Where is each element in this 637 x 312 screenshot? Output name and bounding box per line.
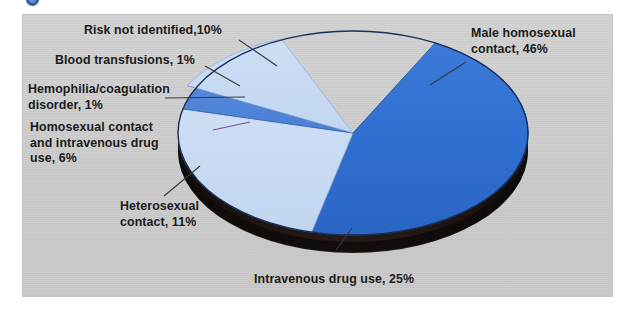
pie-slices xyxy=(178,31,528,235)
label-male-homosexual-contact: Male homosexual contact, 46% xyxy=(471,26,576,57)
label-risk-not-identified: Risk not identified,10% xyxy=(84,23,222,39)
label-homosexual-and-iv-drug-use: Homosexual contact and intravenous drug … xyxy=(30,120,159,167)
label-hemophilia-coagulation-disorder: Hemophilia/coagulation disorder, 1% xyxy=(28,82,170,113)
label-blood-transfusions: Blood transfusions, 1% xyxy=(55,53,195,69)
label-intravenous-drug-use: Intravenous drug use, 25% xyxy=(254,272,414,288)
figure-root: Risk not identified,10% Blood transfusio… xyxy=(0,0,637,312)
label-heterosexual-contact: Heterosexual contact, 11% xyxy=(120,199,199,230)
